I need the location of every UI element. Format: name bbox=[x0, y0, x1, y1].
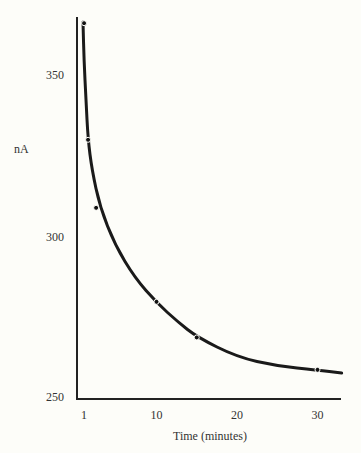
y-tick-label: 350 bbox=[46, 68, 64, 82]
x-tick-label: 1 bbox=[81, 408, 87, 422]
data-point bbox=[86, 137, 91, 142]
chart: 250300350 1102030 nA Time (minutes) bbox=[0, 0, 361, 453]
data-point bbox=[194, 335, 199, 340]
y-tick-label: 250 bbox=[46, 390, 64, 404]
y-tick-label: 300 bbox=[46, 230, 64, 244]
data-point bbox=[94, 205, 99, 210]
x-tick-label: 30 bbox=[312, 408, 324, 422]
x-tick-label: 10 bbox=[151, 408, 163, 422]
y-axis-label: nA bbox=[14, 142, 29, 156]
x-tick-label: 20 bbox=[231, 408, 243, 422]
data-point bbox=[315, 367, 320, 372]
data-point bbox=[154, 299, 159, 304]
x-axis-label: Time (minutes) bbox=[173, 429, 247, 443]
data-point bbox=[82, 21, 87, 26]
data-curve bbox=[83, 22, 342, 373]
